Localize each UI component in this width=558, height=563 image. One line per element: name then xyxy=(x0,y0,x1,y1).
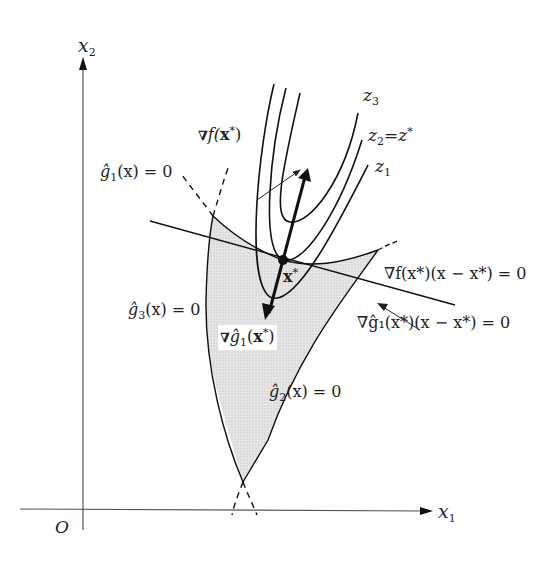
constraint-g3-dashed xyxy=(213,168,228,216)
contour-z2-label: z2=z* xyxy=(368,126,413,147)
contour-z3-label: z3 xyxy=(363,87,379,107)
contour-z1-label: z1 xyxy=(375,158,391,178)
constraint-g1-label: ĝ1(x) = 0 xyxy=(100,164,173,183)
gradient-f-arrow xyxy=(283,173,306,260)
origin-label: O xyxy=(55,519,69,536)
constraint-g3-label: ĝ3(x) = 0 xyxy=(128,302,201,321)
x1-axis-arrow-icon xyxy=(420,507,433,515)
tangent-g1-leader-arrow-icon xyxy=(377,303,388,311)
x1-axis xyxy=(20,509,425,511)
gradient-f-label: ∇f(x*) xyxy=(198,125,241,143)
tangent-f-label: ∇f(x*)(x − x*) = 0 xyxy=(384,266,526,282)
kkt-diagram: x2 x1 O z3 z2=z* z1 ∇f(x*) x* ∇ĝ1(x*) ĝ1… xyxy=(0,0,558,563)
optimal-point xyxy=(278,255,288,265)
constraint-g2-label: ĝ2(x) = 0 xyxy=(269,384,342,403)
constraint-g1-dashed-right xyxy=(378,240,400,250)
gradient-f-leader xyxy=(257,170,300,200)
x1-axis-label: x1 xyxy=(438,502,456,524)
constraint-g1-dashed xyxy=(182,175,213,216)
contour-z3 xyxy=(280,93,358,222)
gradient-g1-label: ∇ĝ1(x*) xyxy=(218,325,277,350)
optimal-point-label: x* xyxy=(283,267,298,285)
x2-axis-label: x2 xyxy=(78,36,96,58)
x2-axis-arrow-icon xyxy=(79,57,87,70)
tangent-g1-label: ∇ĝ₁(x*)(x − x*) = 0 xyxy=(357,315,510,331)
